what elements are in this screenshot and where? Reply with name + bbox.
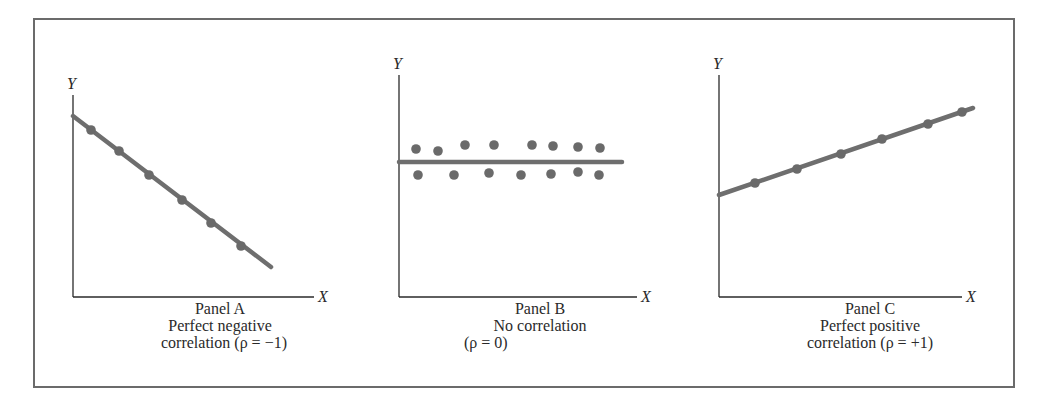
panel-c-subtitle-1: Perfect positive xyxy=(770,317,970,334)
panel-b-title: Panel B xyxy=(450,300,630,317)
data-point xyxy=(527,140,537,150)
x-axis-label: X xyxy=(640,288,652,305)
panel-b-plot: YX xyxy=(393,55,652,305)
data-point xyxy=(484,168,494,178)
panel-b-subtitle-1: No correlation xyxy=(450,317,630,334)
panel-a-title: Panel A xyxy=(130,300,310,317)
data-point xyxy=(460,140,470,150)
data-point xyxy=(836,149,846,159)
panel-a-subtitle-1: Perfect negative xyxy=(130,317,310,334)
panel-b-caption: Panel B No correlation (ρ = 0) xyxy=(450,300,630,351)
data-point xyxy=(594,170,604,180)
data-point xyxy=(573,142,583,152)
x-axis-label: X xyxy=(317,288,329,305)
y-axis-label: Y xyxy=(713,55,724,72)
data-point xyxy=(546,169,556,179)
data-point xyxy=(750,178,760,188)
panel-c-caption: Panel C Perfect positive correlation (ρ … xyxy=(770,300,970,351)
data-point xyxy=(548,141,558,151)
data-point xyxy=(433,146,443,156)
panel-c-subtitle-2: correlation (ρ = +1) xyxy=(770,334,970,351)
data-point xyxy=(144,170,154,180)
data-point xyxy=(489,140,499,150)
y-axis-label: Y xyxy=(67,75,78,92)
data-point xyxy=(449,170,459,180)
panel-c-title: Panel C xyxy=(770,300,970,317)
panel-b-subtitle-2: (ρ = 0) xyxy=(450,334,630,351)
data-point xyxy=(86,125,96,135)
data-point xyxy=(877,134,887,144)
panel-a-caption: Panel A Perfect negative correlation (ρ … xyxy=(130,300,310,351)
data-point xyxy=(206,218,216,228)
data-point xyxy=(516,170,526,180)
data-point xyxy=(957,107,967,117)
panel-a-subtitle-2: correlation (ρ = −1) xyxy=(138,334,310,351)
data-point xyxy=(573,167,583,177)
data-point xyxy=(236,241,246,251)
panel-c-plot: YX xyxy=(713,55,977,305)
y-axis-label: Y xyxy=(393,55,404,72)
panel-a-plot: YX xyxy=(67,75,329,305)
data-point xyxy=(413,170,423,180)
data-point xyxy=(114,146,124,156)
data-point xyxy=(595,143,605,153)
data-point xyxy=(177,195,187,205)
data-point xyxy=(411,144,421,154)
data-point xyxy=(792,164,802,174)
data-point xyxy=(923,119,933,129)
